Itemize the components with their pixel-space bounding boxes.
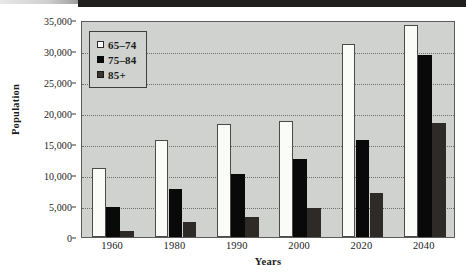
bar [183, 222, 197, 237]
white-square-icon [97, 41, 104, 48]
y-axis-tick-mark [72, 176, 76, 177]
x-axis-tick-label: 2000 [288, 240, 310, 251]
y-axis-tick-mark [72, 114, 76, 115]
bar [404, 25, 418, 237]
y-axis-tick-label: 5,000 [49, 202, 72, 213]
bar [245, 217, 259, 237]
y-axis-tick-label: 20,000 [44, 109, 72, 120]
bar [307, 208, 321, 237]
y-axis-tick-mark [72, 207, 76, 208]
x-axis-tick-label: 2040 [413, 240, 435, 251]
x-axis-tick-label: 2020 [351, 240, 373, 251]
bar-group [155, 22, 197, 237]
gridline [82, 115, 454, 116]
bar [356, 140, 370, 237]
bar [92, 168, 106, 237]
gridline [82, 146, 454, 147]
x-axis-tick-labels: 196019801990200020202040 [81, 240, 455, 256]
bar [293, 159, 307, 237]
bar [231, 174, 245, 237]
y-axis-tick-label: 35,000 [44, 16, 72, 27]
gridline [82, 208, 454, 209]
y-axis-tick-mark [72, 83, 76, 84]
y-axis-tick-mark [72, 52, 76, 53]
x-axis-tick-label: 1960 [101, 240, 123, 251]
bar [418, 55, 432, 237]
x-axis-tick-label: 1980 [164, 240, 186, 251]
bar [169, 189, 183, 237]
bar-group [279, 22, 321, 237]
legend-item: 85+ [97, 67, 137, 82]
x-axis-title: Years [81, 256, 455, 267]
legend-item-label: 75–84 [108, 54, 137, 66]
y-axis-tick-label: 15,000 [44, 140, 72, 151]
y-axis-title: Population [10, 70, 21, 150]
x-axis-tick-label: 1990 [226, 240, 248, 251]
bar [217, 124, 231, 237]
black-square-icon [97, 56, 104, 63]
gridline [82, 177, 454, 178]
bar [106, 207, 120, 237]
bar-group [404, 22, 446, 237]
y-axis-tick-label: 30,000 [44, 47, 72, 58]
legend-item-label: 65–74 [108, 39, 137, 51]
legend-item-label: 85+ [108, 69, 126, 81]
bar [432, 123, 446, 237]
y-axis-tick-mark [72, 238, 76, 239]
y-axis-tick-mark [72, 145, 76, 146]
y-axis-tick-labels: 05,00010,00015,00020,00025,00030,00035,0… [20, 21, 76, 238]
bar-group [342, 22, 384, 237]
y-axis-tick-mark [72, 21, 76, 22]
bar [155, 140, 169, 237]
bar [370, 193, 384, 237]
bar [279, 121, 293, 237]
bar-group [217, 22, 259, 237]
bar [120, 231, 134, 237]
bar [342, 44, 356, 237]
bar-chart-figure: Population 05,00010,00015,00020,00025,00… [0, 0, 466, 273]
legend-item: 75–84 [97, 52, 137, 67]
legend-item: 65–74 [97, 37, 137, 52]
chart-legend: 65–7475–8485+ [89, 31, 147, 88]
dark-gray-square-icon [97, 71, 104, 78]
y-axis-tick-label: 25,000 [44, 78, 72, 89]
y-axis-tick-label: 10,000 [44, 171, 72, 182]
